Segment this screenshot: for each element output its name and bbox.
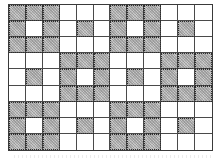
shaded-cell <box>9 134 26 150</box>
shaded-cell <box>144 21 161 37</box>
white-cell <box>77 102 94 118</box>
shaded-cell <box>9 21 26 37</box>
white-cell <box>178 134 195 150</box>
shaded-cell <box>110 102 127 118</box>
white-cell <box>43 69 60 85</box>
shaded-cell <box>94 53 111 69</box>
white-cell <box>60 37 77 53</box>
white-cell <box>77 134 94 150</box>
white-cell <box>195 21 212 37</box>
white-cell <box>110 86 127 102</box>
shaded-cell <box>26 102 43 118</box>
white-cell <box>94 37 111 53</box>
shaded-cell <box>110 5 127 21</box>
shaded-cell <box>144 118 161 134</box>
shaded-cell <box>43 37 60 53</box>
shaded-cell <box>195 53 212 69</box>
white-cell <box>195 134 212 150</box>
shaded-cell <box>77 118 94 134</box>
shaded-cell <box>60 53 77 69</box>
white-cell <box>26 53 43 69</box>
shaded-cell <box>161 53 178 69</box>
shaded-cell <box>9 102 26 118</box>
white-cell <box>127 53 144 69</box>
white-cell <box>178 37 195 53</box>
shaded-cell <box>26 69 43 85</box>
shaded-cell <box>127 69 144 85</box>
shaded-cell <box>127 5 144 21</box>
shaded-cell <box>60 69 77 85</box>
white-cell <box>195 5 212 21</box>
shaded-cell <box>144 37 161 53</box>
white-cell <box>94 21 111 37</box>
white-cell <box>161 102 178 118</box>
white-cell <box>178 102 195 118</box>
scan-noise <box>14 155 214 158</box>
shaded-cell <box>43 118 60 134</box>
shaded-cell <box>26 5 43 21</box>
shaded-cell <box>161 69 178 85</box>
shaded-cell <box>144 5 161 21</box>
shaded-cell <box>26 134 43 150</box>
shaded-cell <box>110 134 127 150</box>
shaded-cell <box>127 134 144 150</box>
white-cell <box>144 69 161 85</box>
white-cell <box>144 86 161 102</box>
shaded-cell <box>110 118 127 134</box>
white-cell <box>60 118 77 134</box>
shaded-cell <box>77 21 94 37</box>
white-cell <box>110 53 127 69</box>
shaded-cell <box>195 69 212 85</box>
white-cell <box>178 5 195 21</box>
shaded-cell <box>94 69 111 85</box>
white-cell <box>94 118 111 134</box>
shaded-cell <box>60 86 77 102</box>
white-cell <box>43 53 60 69</box>
white-cell <box>77 5 94 21</box>
white-cell <box>144 53 161 69</box>
white-cell <box>195 102 212 118</box>
white-cell <box>77 37 94 53</box>
white-cell <box>9 69 26 85</box>
white-cell <box>161 134 178 150</box>
shaded-cell <box>144 102 161 118</box>
shaded-cell <box>110 21 127 37</box>
shaded-cell <box>26 37 43 53</box>
shaded-cell <box>127 102 144 118</box>
white-cell <box>60 134 77 150</box>
white-cell <box>26 86 43 102</box>
shaded-cell <box>77 53 94 69</box>
shaded-cell <box>178 53 195 69</box>
white-cell <box>161 21 178 37</box>
white-cell <box>161 37 178 53</box>
shaded-cell <box>9 118 26 134</box>
white-cell <box>43 86 60 102</box>
white-cell <box>9 53 26 69</box>
white-cell <box>178 69 195 85</box>
shaded-cell <box>43 5 60 21</box>
shaded-cell <box>195 86 212 102</box>
white-cell <box>195 118 212 134</box>
shaded-cell <box>43 102 60 118</box>
white-cell <box>161 118 178 134</box>
white-cell <box>26 21 43 37</box>
white-cell <box>94 102 111 118</box>
shaded-cell <box>127 37 144 53</box>
shaded-cell <box>9 5 26 21</box>
shaded-cell <box>77 86 94 102</box>
white-cell <box>110 69 127 85</box>
white-cell <box>195 37 212 53</box>
shaded-cell <box>94 86 111 102</box>
shaded-cell <box>144 134 161 150</box>
white-cell <box>161 5 178 21</box>
shaded-cell <box>43 21 60 37</box>
shaded-cell <box>178 21 195 37</box>
white-cell <box>127 86 144 102</box>
white-cell <box>60 5 77 21</box>
white-cell <box>9 86 26 102</box>
shaded-cell <box>43 134 60 150</box>
white-cell <box>60 102 77 118</box>
shaded-cell <box>9 37 26 53</box>
shaded-cell <box>161 86 178 102</box>
white-cell <box>77 69 94 85</box>
